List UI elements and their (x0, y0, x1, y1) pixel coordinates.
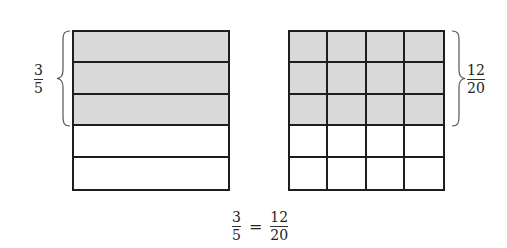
numerator: 12 (270, 210, 288, 225)
right-fraction-label: 12 20 (467, 63, 485, 96)
shaded-cell (367, 63, 405, 94)
unshaded-cell (328, 126, 366, 157)
unshaded-cell (405, 126, 443, 157)
unshaded-cell (405, 158, 443, 189)
left-fraction-model (72, 30, 230, 191)
shaded-cell (74, 32, 228, 63)
shaded-cell (328, 32, 366, 63)
shaded-cell (290, 32, 328, 63)
equation-left-fraction: 3 5 (232, 210, 241, 243)
unshaded-cell (367, 126, 405, 157)
shaded-cell (74, 95, 228, 126)
unshaded-cell (74, 126, 228, 157)
shaded-cell (367, 32, 405, 63)
unshaded-cell (367, 158, 405, 189)
unshaded-cell (74, 158, 228, 189)
unshaded-cell (328, 158, 366, 189)
left-brace-icon (56, 30, 72, 127)
denominator: 20 (467, 81, 485, 96)
numerator: 12 (467, 63, 485, 78)
shaded-cell (74, 63, 228, 94)
numerator: 3 (232, 210, 241, 225)
equivalence-equation: 3 5 = 12 20 (232, 210, 288, 243)
denominator: 20 (270, 228, 288, 243)
equation-right-fraction: 12 20 (270, 210, 288, 243)
right-brace-icon (450, 30, 466, 127)
shaded-cell (405, 32, 443, 63)
denominator: 5 (34, 81, 43, 96)
shaded-cell (290, 63, 328, 94)
shaded-cell (328, 63, 366, 94)
unshaded-cell (290, 158, 328, 189)
numerator: 3 (34, 63, 43, 78)
shaded-cell (405, 95, 443, 126)
shaded-cell (290, 95, 328, 126)
left-fraction-label: 3 5 (34, 63, 43, 96)
unshaded-cell (290, 126, 328, 157)
equals-sign: = (249, 217, 262, 236)
denominator: 5 (232, 228, 241, 243)
shaded-cell (367, 95, 405, 126)
shaded-cell (405, 63, 443, 94)
shaded-cell (328, 95, 366, 126)
right-fraction-model (288, 30, 445, 191)
